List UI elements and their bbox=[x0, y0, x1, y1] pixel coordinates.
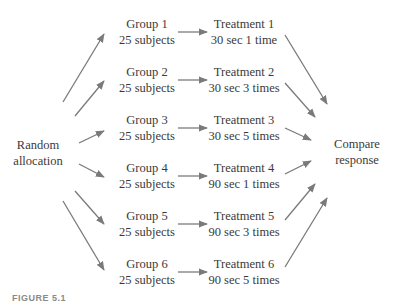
arrow-random-to-group-5 bbox=[75, 191, 104, 224]
group-3-node: Group 3 25 subjects bbox=[112, 112, 182, 144]
arrow-random-to-group-2 bbox=[75, 81, 104, 116]
compare-response-label: Compare response bbox=[326, 136, 388, 168]
arrow-treatment-5-to-compare bbox=[285, 184, 315, 220]
arrow-treatment-1-to-compare bbox=[285, 35, 327, 104]
random-allocation-label: Random allocation bbox=[6, 137, 70, 169]
arrow-treatment-6-to-compare bbox=[285, 198, 327, 267]
treatment-3-node: Treatment 3 30 sec 5 times bbox=[203, 112, 285, 144]
arrow-treatment-3-to-compare bbox=[285, 128, 311, 140]
arrow-random-to-group-4 bbox=[79, 164, 104, 177]
figure-caption: FIGURE 5.1 bbox=[12, 293, 66, 301]
arrow-random-to-group-3 bbox=[79, 131, 104, 143]
arrow-random-to-group-1 bbox=[63, 34, 104, 102]
group-4-node: Group 4 25 subjects bbox=[112, 160, 182, 192]
group-2-node: Group 2 25 subjects bbox=[112, 64, 182, 96]
arrow-treatment-2-to-compare bbox=[285, 83, 315, 117]
group-1-node: Group 1 25 subjects bbox=[112, 16, 182, 48]
treatment-6-node: Treatment 6 90 sec 5 times bbox=[203, 256, 285, 288]
group-5-node: Group 5 25 subjects bbox=[112, 208, 182, 240]
arrow-treatment-4-to-compare bbox=[285, 161, 311, 174]
treatment-2-node: Treatment 2 30 sec 3 times bbox=[203, 64, 285, 96]
treatment-4-node: Treatment 4 90 sec 1 times bbox=[203, 160, 285, 192]
arrow-random-to-group-6 bbox=[63, 201, 104, 270]
treatment-1-node: Treatment 1 30 sec 1 time bbox=[203, 16, 285, 48]
treatment-5-node: Treatment 5 90 sec 3 times bbox=[203, 208, 285, 240]
group-6-node: Group 6 25 subjects bbox=[112, 256, 182, 288]
